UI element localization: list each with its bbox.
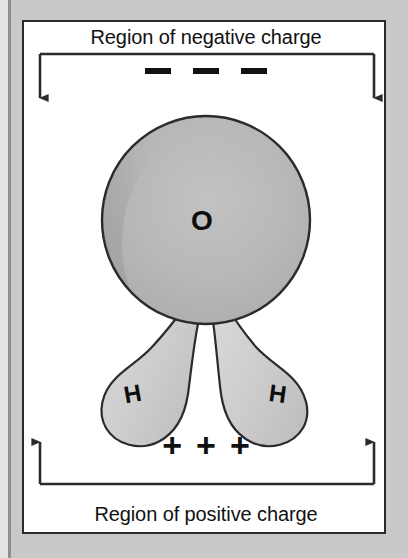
hydrogen-right-atom [212, 305, 307, 446]
diagram-panel: Region of negative charge [22, 20, 386, 534]
bottom-caption: Region of positive charge [24, 503, 388, 526]
plus-sign: + [162, 432, 182, 458]
oxygen-label: O [191, 205, 213, 237]
page-edge-strip [0, 0, 8, 558]
hydrogen-left-atom [101, 305, 200, 446]
plus-sign: + [230, 432, 250, 458]
page-edge-line [8, 0, 11, 558]
positive-charge-row: + + + [24, 432, 388, 458]
plus-sign: + [196, 432, 216, 458]
figure-container: Region of negative charge [0, 0, 408, 558]
